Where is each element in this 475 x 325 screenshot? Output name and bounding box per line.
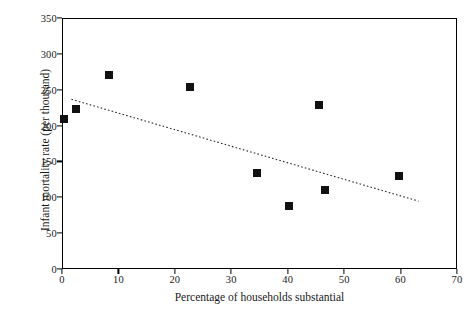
x-tick-label: 40 [282, 274, 293, 285]
x-tick-label: 0 [59, 274, 64, 285]
y-tick-mark [57, 125, 62, 126]
x-tick-mark [344, 269, 345, 274]
x-tick-label: 60 [395, 274, 406, 285]
x-tick-label: 50 [339, 274, 350, 285]
data-point [60, 115, 68, 123]
data-point [186, 83, 194, 91]
y-tick-mark [57, 233, 62, 234]
x-tick-label: 10 [113, 274, 124, 285]
x-tick-mark [231, 269, 232, 274]
data-point [315, 101, 323, 109]
y-axis-title: Infant mortality rate (per thousand) [39, 25, 51, 275]
data-point [72, 105, 80, 113]
data-point [395, 172, 403, 180]
x-tick-mark [287, 269, 288, 274]
data-point [253, 169, 261, 177]
y-tick-mark [57, 53, 62, 54]
x-tick-mark [400, 269, 401, 274]
x-tick-label: 30 [226, 274, 237, 285]
plot-inner [63, 19, 456, 268]
x-axis-title: Percentage of households substantial [62, 291, 457, 303]
data-point [105, 71, 113, 79]
y-tick-mark [57, 161, 62, 162]
x-tick-mark [118, 269, 119, 274]
trend-line [63, 19, 458, 270]
plot-area [62, 18, 457, 269]
x-tick-mark [174, 269, 175, 274]
x-tick-mark [456, 269, 457, 274]
x-tick-label: 20 [169, 274, 180, 285]
y-tick-mark [57, 89, 62, 90]
x-tick-label: 70 [452, 274, 463, 285]
scatter-chart: 050100150200250300350 Infant mortality r… [0, 0, 475, 325]
data-point [285, 202, 293, 210]
data-point [321, 186, 329, 194]
y-tick-label: 350 [41, 13, 57, 24]
x-tick-mark [61, 269, 62, 274]
y-tick-mark [57, 17, 62, 18]
y-tick-mark [57, 197, 62, 198]
